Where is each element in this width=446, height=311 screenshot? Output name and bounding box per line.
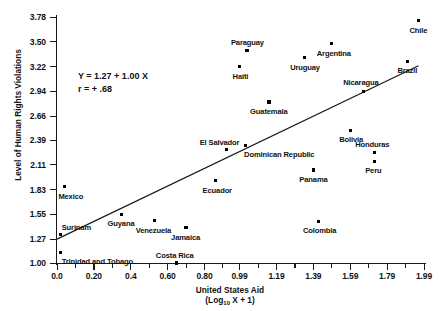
regression-equation: Y = 1.27 + 1.00 X [78,70,148,83]
x-tick [276,264,277,270]
y-tick-label: 1.27 [2,234,46,244]
x-tick [167,264,168,270]
data-point-label: Ecuador [203,187,232,195]
scatter-plot-figure: 1.001.271.551.832.112.392.662.943.223.50… [0,0,446,311]
data-point-label: Nicaragua [343,79,378,87]
x-tick-minor [258,264,259,268]
data-point [267,100,270,103]
data-point [225,148,228,151]
x-tick-minor [405,264,406,268]
data-point [330,42,333,45]
x-tick-label: 0.4 [111,271,151,281]
x-tick-minor [294,264,295,268]
x-tick-minor [222,264,223,268]
data-point-label: Argentina [317,50,351,58]
data-point [312,168,315,171]
data-point [175,261,178,264]
data-point-label: Jamaica [171,234,200,242]
data-point-label: Guyana [108,220,135,228]
y-tick-label: 2.11 [2,160,46,170]
data-point-label: Dominican Republic [244,151,314,159]
data-point-label: Trinidad and Tobago [62,258,133,266]
data-point [63,185,66,188]
x-tick-label: 1.59 [330,271,370,281]
data-point [214,179,217,182]
data-point [373,151,376,154]
y-tick [50,17,57,18]
y-tick-label: 1.00 [2,258,46,268]
y-tick-label: 3.78 [2,12,46,22]
y-tick [50,214,57,215]
x-tick [387,264,388,270]
y-tick [50,116,57,117]
data-point-label: Uruguay [290,64,320,72]
data-point [184,226,187,229]
data-point-label: Guatemala [250,108,287,116]
x-tick [239,264,240,270]
data-point [317,220,320,223]
x-tick-label: 1.39 [293,271,333,281]
x-tick-minor [368,264,369,268]
data-point [362,90,365,93]
data-point [373,160,376,163]
x-axis-title-units: (Log10 X + 1) [205,295,254,305]
regression-annotation: Y = 1.27 + 1.00 X r = + .68 [78,70,148,96]
data-point-label: Brazil [397,67,417,75]
data-point [349,129,352,132]
data-point-label: Panama [299,176,327,184]
x-axis-title: United States Aid (Log10 X + 1) [150,285,310,308]
y-axis-title: Level of Human Rights Violations [13,25,23,205]
data-point-label: Peru [365,167,381,175]
x-axis-title-main: United States Aid [196,285,264,295]
y-tick [50,164,57,165]
data-point [153,219,156,222]
x-tick [424,264,425,270]
x-tick [204,264,205,270]
y-tick-label: 2.94 [2,86,46,96]
y-tick-label: 3.22 [2,62,46,72]
y-tick [50,41,57,42]
data-point [406,60,409,63]
y-tick [50,66,57,67]
data-point [244,144,247,147]
x-tick-minor [331,264,332,268]
data-point-label: Colombia [303,227,336,235]
data-point-label: Honduras [355,141,389,149]
data-point [120,213,123,216]
x-tick-label: 0.80 [185,271,225,281]
data-point-label: Haiti [233,73,249,81]
y-tick-label: 1.55 [2,209,46,219]
y-tick [50,140,57,141]
x-tick [57,264,58,270]
data-point-label: Surinam [62,224,91,232]
x-tick-label: 0.99 [220,271,260,281]
data-point [245,49,248,52]
correlation-value: r = + .68 [78,83,148,96]
data-point [59,251,62,254]
y-tick [50,189,57,190]
data-point [238,65,241,68]
data-point [303,56,306,59]
y-tick-label: 1.83 [2,185,46,195]
x-tick-label: 0.0 [37,271,77,281]
data-point [59,233,62,236]
data-point-label: Paraguay [231,39,264,47]
y-tick-label: 2.39 [2,135,46,145]
x-tick-minor [149,264,150,268]
data-point-label: Chile [409,27,427,35]
x-tick [350,264,351,270]
x-tick-label: 1.79 [367,271,407,281]
x-tick-label: 0.60 [148,271,188,281]
data-point-label: Costa Rica [156,252,194,260]
data-point-label: Mexico [58,193,83,201]
data-point [417,19,420,22]
data-point-label: Venezuela [136,227,171,235]
x-tick [313,264,314,270]
data-point-label: El Salvador [200,139,240,147]
x-tick-label: 0.20 [74,271,114,281]
x-tick-label: 1.99 [404,271,444,281]
x-tick-label: 1.19 [256,271,296,281]
x-tick-minor [186,264,187,268]
y-tick-label: 3.50 [2,37,46,47]
y-tick [50,239,57,240]
